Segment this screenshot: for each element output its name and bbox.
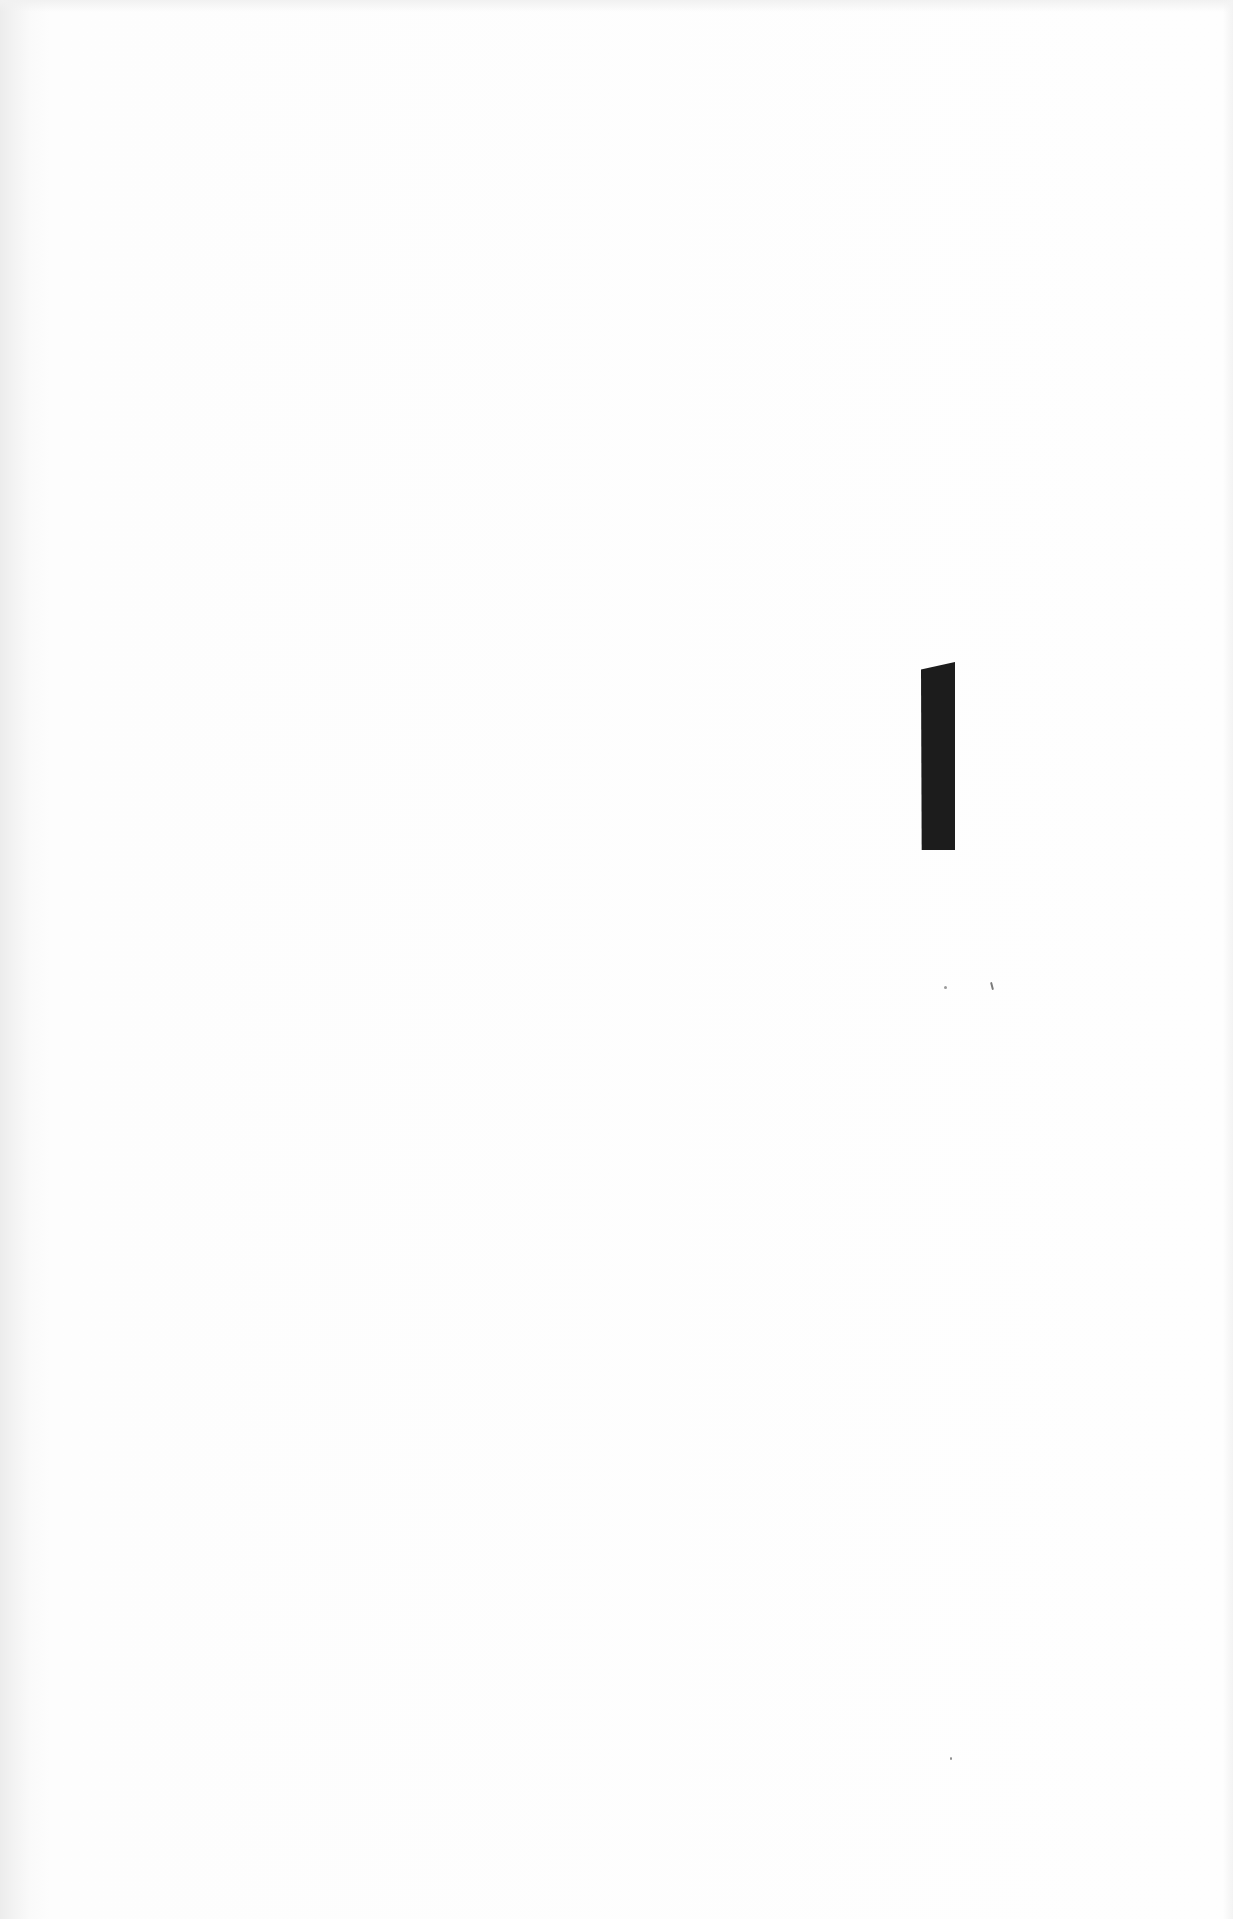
side-index-marker-bar bbox=[921, 662, 955, 850]
scan-top-edge-shadow bbox=[0, 0, 1233, 12]
scan-speck bbox=[990, 982, 994, 990]
scan-speck bbox=[950, 1757, 952, 1760]
scanned-page bbox=[0, 0, 1233, 1919]
scan-right-edge-shadow bbox=[1223, 0, 1233, 1919]
scan-speck bbox=[944, 986, 947, 989]
